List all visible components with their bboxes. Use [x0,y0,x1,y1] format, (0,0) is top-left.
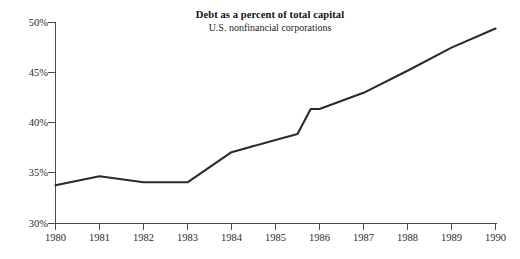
x-axis-label-1989: 1989 [432,232,472,243]
x-axis-label-1984: 1984 [212,232,252,243]
y-axis-label-35: 35% [8,167,48,178]
x-axis-label-1990: 1990 [476,232,516,243]
x-axis-label-1988: 1988 [388,232,428,243]
x-axis-label-1985: 1985 [256,232,296,243]
y-axis-label-40: 40% [8,117,48,128]
x-axis-label-1982: 1982 [124,232,164,243]
y-axis-label-45: 45% [8,67,48,78]
data-series-line [56,29,496,186]
chart-plot-area [0,0,520,259]
x-axis-label-1983: 1983 [168,232,208,243]
chart-figure: Debt as a percent of total capital U.S. … [0,0,520,259]
x-axis-label-1987: 1987 [344,232,384,243]
y-axis-label-50: 50% [8,17,48,28]
x-axis-label-1986: 1986 [300,232,340,243]
y-axis-label-30: 30% [8,218,48,229]
x-axis-label-1980: 1980 [36,232,76,243]
x-axis-label-1981: 1981 [80,232,120,243]
